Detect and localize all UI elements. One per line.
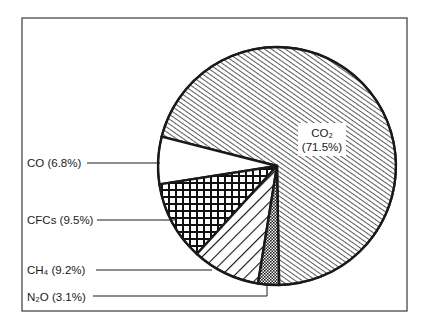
co2-label-name: CO₂ [311,127,333,139]
n2o-label: N₂O (3.1%) [27,291,86,303]
ch4-label: CH₄ (9.2%) [27,264,86,276]
co-label: CO (6.8%) [27,157,81,169]
pie-chart: CO₂ (71.5%) CO (6.8%) CFCs (9.5%) CH₄ (9… [0,0,430,331]
n2o-leader-line [93,284,267,296]
cfcs-label: CFCs (9.5%) [27,214,94,226]
co2-label-percent: (71.5%) [302,141,342,153]
